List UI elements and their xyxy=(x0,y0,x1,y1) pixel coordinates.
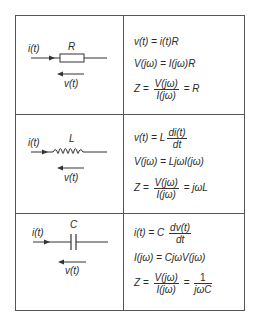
impedance-equation: Z = V(jω)I(jω) = jωL xyxy=(134,177,208,200)
capacitor-label: C xyxy=(70,219,77,230)
inductor-diagram: i(t) L v(t) xyxy=(16,115,123,213)
time-domain-equation: v(t) = Ldi(t)dt xyxy=(134,127,189,150)
impedance-equation: Z = V(jω)I(jω) = R xyxy=(134,78,200,101)
capacitor-row: i(t) C v(t) i(t) = C dv(t)dt I(jω) = Cjω… xyxy=(16,214,244,310)
time-domain-equation: v(t) = i(t)R xyxy=(134,36,179,48)
current-label: i(t) xyxy=(32,227,44,238)
time-domain-equation: i(t) = C dv(t)dt xyxy=(134,222,193,245)
phasor-equation: V(jω) = LjωI(jω) xyxy=(134,156,204,168)
phasor-equation: I(jω) = CjωV(jω) xyxy=(134,252,205,264)
inductor-coil-icon xyxy=(16,115,123,213)
capacitor-diagram: i(t) C v(t) xyxy=(16,214,123,310)
voltage-label: v(t) xyxy=(64,172,78,183)
impedance-equation: Z = V(jω)I(jω) = 1jωC xyxy=(134,272,214,295)
inductor-row: i(t) L v(t) v(t) = Ldi(t)dt V(jω) = LjωI… xyxy=(16,115,244,213)
current-label: i(t) xyxy=(28,137,40,148)
current-label: i(t) xyxy=(28,43,40,54)
inductor-equations: v(t) = Ldi(t)dt V(jω) = LjωI(jω) Z = V(j… xyxy=(124,115,244,213)
resistor-label: R xyxy=(68,41,75,52)
phasor-equation: V(jω) = I(jω)R xyxy=(134,58,195,70)
resistor-row: i(t) R v(t) v(t) = i(t)R V(jω) = I(jω)R … xyxy=(16,16,244,114)
voltage-label: v(t) xyxy=(65,265,79,276)
resistor-diagram: i(t) R v(t) xyxy=(16,16,123,114)
resistor-symbol-icon xyxy=(16,16,123,114)
voltage-label: v(t) xyxy=(64,78,78,89)
resistor-equations: v(t) = i(t)R V(jω) = I(jω)R Z = V(jω)I(j… xyxy=(124,16,244,114)
component-impedance-table: i(t) R v(t) v(t) = i(t)R V(jω) = I(jω)R … xyxy=(15,15,245,311)
capacitor-equations: i(t) = C dv(t)dt I(jω) = CjωV(jω) Z = V(… xyxy=(124,214,244,310)
inductor-label: L xyxy=(69,133,75,144)
